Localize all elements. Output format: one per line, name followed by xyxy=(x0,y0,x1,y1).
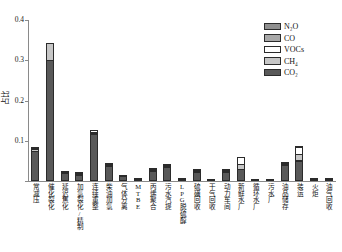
x-tick-label-slot: 硫磺回收 xyxy=(189,183,204,252)
bar-segment-co2 xyxy=(61,173,69,181)
y-tick-label: 0.1 xyxy=(2,137,24,145)
x-tick-label: 油气回收 xyxy=(325,183,332,210)
bar-slot xyxy=(43,20,58,181)
x-tick-label-slot: 污水厂 xyxy=(263,183,278,252)
x-tick-label: 连续重整 xyxy=(90,183,97,210)
bar-segment-co2 xyxy=(207,179,215,181)
bar-segment-co2 xyxy=(149,171,157,181)
x-tick-label: 加氢裂化/精制 xyxy=(76,183,83,230)
stacked-bar[interactable] xyxy=(222,170,230,181)
stacked-bar[interactable] xyxy=(105,164,113,181)
x-tick-label-slot: 连续重整 xyxy=(87,183,102,252)
stacked-bar[interactable] xyxy=(90,130,98,181)
x-tick-label-slot: 加氢裂化/精制 xyxy=(72,183,87,252)
bar-slot xyxy=(204,20,219,181)
y-tick-mark xyxy=(25,181,28,182)
stacked-bar[interactable] xyxy=(207,180,215,181)
stacked-bar[interactable] xyxy=(163,164,171,181)
x-tick-label-slot: 新鲜水厂 xyxy=(233,183,248,252)
x-tick-label-slot: 干气回收 xyxy=(204,183,219,252)
legend-item[interactable]: CH₄ xyxy=(264,56,338,67)
x-tick-label: LPG脱硫醇 xyxy=(178,183,185,223)
bar-slot xyxy=(248,20,263,181)
legend-label: VOCs xyxy=(284,45,304,54)
x-tick-label-slot: 火炬 xyxy=(307,183,322,252)
x-tick-label-slot: 丙烯聚合 xyxy=(145,183,160,252)
stacked-bar[interactable] xyxy=(237,158,245,181)
legend-swatch xyxy=(264,23,281,31)
x-tick-label: MTBE xyxy=(134,183,141,210)
stacked-bar[interactable] xyxy=(295,146,303,181)
x-tick-label: 动力车间 xyxy=(222,183,229,210)
x-tick-label: 油品储存 xyxy=(281,183,288,210)
x-tick-label-slot: 油气回收 xyxy=(321,183,336,252)
bar-chart: 0.10.20.30.4 占比 常减压催化裂化延迟焦化加氢裂化/精制连续重整柴油… xyxy=(0,0,342,252)
bar-segment-co2 xyxy=(119,176,127,181)
stacked-bar[interactable] xyxy=(46,43,54,181)
chart-legend: N₂OCOVOCsCH₄CO₂ xyxy=(264,21,338,79)
stacked-bar[interactable] xyxy=(119,175,127,181)
legend-swatch xyxy=(264,46,281,54)
x-tick-label-slot: 柴油加氢 xyxy=(101,183,116,252)
x-axis-labels: 常减压催化裂化延迟焦化加氢裂化/精制连续重整柴油加氢气体分离MTBE丙烯聚合污水… xyxy=(28,183,336,252)
stacked-bar[interactable] xyxy=(31,147,39,181)
y-tick-label: 0.4 xyxy=(2,16,24,24)
bar-slot xyxy=(189,20,204,181)
stacked-bar[interactable] xyxy=(281,163,289,181)
bar-slot xyxy=(101,20,116,181)
stacked-bar[interactable] xyxy=(325,178,333,181)
x-tick-label: 循环水厂 xyxy=(252,183,259,210)
x-tick-label: 新鲜水厂 xyxy=(237,183,244,210)
legend-item[interactable]: CO₂ xyxy=(264,67,338,78)
x-tick-label-slot: MTBE xyxy=(131,183,146,252)
legend-label: CO₂ xyxy=(284,68,298,77)
x-tick-label: 污水汽提 xyxy=(164,183,171,210)
stacked-bar[interactable] xyxy=(75,172,83,181)
bar-slot xyxy=(131,20,146,181)
stacked-bar[interactable] xyxy=(266,180,274,181)
bar-segment-co2 xyxy=(325,179,333,181)
bar-slot xyxy=(175,20,190,181)
stacked-bar[interactable] xyxy=(193,170,201,181)
x-tick-label-slot: 装运 xyxy=(292,183,307,252)
y-tick-label: 0.3 xyxy=(2,56,24,64)
stacked-bar[interactable] xyxy=(61,172,69,181)
bar-slot xyxy=(116,20,131,181)
bar-slot xyxy=(87,20,102,181)
x-tick-label-slot: 延迟焦化 xyxy=(57,183,72,252)
x-tick-label-slot: 动力车间 xyxy=(219,183,234,252)
bar-slot xyxy=(233,20,248,181)
stacked-bar[interactable] xyxy=(149,169,157,181)
x-tick-label-slot: 常减压 xyxy=(28,183,43,252)
bar-segment-co2 xyxy=(75,175,83,181)
x-tick-label: 污水厂 xyxy=(266,183,273,203)
stacked-bar[interactable] xyxy=(134,178,142,181)
x-tick-label: 火炬 xyxy=(310,183,317,196)
bar-segment-co2 xyxy=(281,165,289,181)
x-tick-label: 催化裂化 xyxy=(46,183,53,210)
bar-segment-ch4 xyxy=(46,43,54,61)
x-tick-label: 装运 xyxy=(296,183,303,196)
x-tick-label: 丙烯聚合 xyxy=(149,183,156,210)
x-tick-label: 气体分离 xyxy=(120,183,127,210)
x-tick-label: 硫磺回收 xyxy=(193,183,200,210)
bar-segment-co2 xyxy=(163,167,171,181)
x-tick-label: 柴油加氢 xyxy=(105,183,112,210)
bar-slot xyxy=(219,20,234,181)
y-axis-title: 占比 xyxy=(0,78,10,118)
stacked-bar[interactable] xyxy=(178,178,186,181)
x-tick-label-slot: 污水汽提 xyxy=(160,183,175,252)
legend-item[interactable]: VOCs xyxy=(264,44,338,55)
legend-label: CH₄ xyxy=(284,57,298,66)
bar-segment-co2 xyxy=(46,60,54,181)
legend-item[interactable]: N₂O xyxy=(264,21,338,32)
bar-segment-co2 xyxy=(295,161,303,181)
stacked-bar[interactable] xyxy=(310,178,318,181)
stacked-bar[interactable] xyxy=(251,180,259,181)
x-tick-label: 常减压 xyxy=(32,183,39,203)
legend-label: N₂O xyxy=(284,22,298,31)
bar-segment-co2 xyxy=(193,172,201,181)
legend-swatch xyxy=(264,34,281,42)
bar-slot xyxy=(145,20,160,181)
legend-item[interactable]: CO xyxy=(264,33,338,44)
